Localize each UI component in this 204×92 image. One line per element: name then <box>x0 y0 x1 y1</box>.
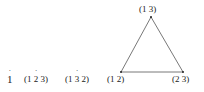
element-132: (1 ˙3 2) <box>65 74 89 84</box>
vertex-label-bottom-left: (1 2) <box>107 74 124 84</box>
vertex-label-bottom-right: (2 3) <box>172 74 189 84</box>
vertex-label-top: (1 3) <box>139 4 156 14</box>
identity-element: ˙1 <box>7 74 13 84</box>
element-123: (1 ˙2 3) <box>24 74 48 84</box>
